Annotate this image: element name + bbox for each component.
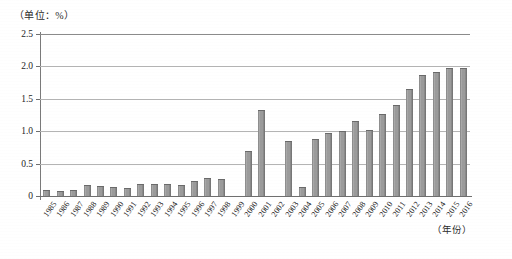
x-tick-label: 1995 (176, 200, 193, 219)
bar (191, 181, 198, 196)
x-tick-label: 1986 (55, 200, 72, 219)
x-tick-label: 2006 (324, 200, 341, 219)
x-tick-label: 1990 (109, 200, 126, 219)
y-tick-mark (36, 196, 40, 197)
x-tick-label: 1987 (68, 200, 85, 219)
x-tick-label: 1989 (95, 200, 112, 219)
x-tick-label: 1999 (229, 200, 246, 219)
bar (57, 191, 64, 196)
x-tick-label: 1996 (189, 200, 206, 219)
y-tick-label: 2.0 (21, 61, 33, 71)
y-tick-label: 0.5 (21, 159, 33, 169)
x-tick-label: 2016 (458, 200, 475, 219)
bar (419, 75, 426, 196)
bar (151, 184, 158, 196)
bar-series (40, 34, 470, 196)
x-axis-title: （年份） (432, 222, 472, 236)
x-tick-label: 1994 (162, 200, 179, 219)
x-axis-line (40, 196, 472, 197)
bar (258, 110, 265, 196)
bar (164, 184, 171, 196)
bar (137, 184, 144, 196)
bar (393, 105, 400, 196)
x-tick-label: 1998 (216, 200, 233, 219)
plot-area: 00.51.01.52.02.5 (40, 34, 470, 196)
bar (312, 139, 319, 196)
x-tick-label: 2003 (283, 200, 300, 219)
x-tick-label: 1985 (41, 200, 58, 219)
bar-chart-figure: （单位：%） 00.51.01.52.02.5 1985198619871988… (0, 0, 512, 259)
bar (245, 151, 252, 196)
x-tick-label: 2009 (364, 200, 381, 219)
x-tick-label: 1992 (135, 200, 152, 219)
bar (433, 72, 440, 196)
x-tick-label: 2011 (391, 200, 408, 218)
bar (366, 130, 373, 196)
x-tick-label: 2001 (256, 200, 273, 219)
bar (124, 188, 131, 196)
y-tick-label: 2.5 (21, 29, 33, 39)
bar (43, 190, 50, 196)
bar (460, 68, 467, 196)
bar (204, 178, 211, 196)
x-tick-label: 2007 (337, 200, 354, 219)
x-tick-label: 1991 (122, 200, 139, 219)
x-tick-label: 2008 (350, 200, 367, 219)
bar (178, 185, 185, 196)
y-tick-label: 0 (28, 191, 33, 201)
x-tick-label: 2012 (404, 200, 421, 219)
bar (352, 121, 359, 196)
bar (339, 131, 346, 196)
x-tick-label: 1993 (149, 200, 166, 219)
y-tick-label: 1.0 (21, 126, 33, 136)
bar (406, 89, 413, 196)
x-tick-label: 2015 (444, 200, 461, 219)
y-tick-label: 1.5 (21, 94, 33, 104)
bar (285, 141, 292, 196)
x-tick-label: 2002 (270, 200, 287, 219)
x-tick-label: 2014 (431, 200, 448, 219)
x-tick-label: 2000 (243, 200, 260, 219)
bar (446, 68, 453, 196)
bar (325, 133, 332, 197)
bar (110, 187, 117, 196)
bar (84, 185, 91, 196)
bar (97, 186, 104, 196)
x-tick-label: 2005 (310, 200, 327, 219)
bar (70, 190, 77, 196)
x-tick-label: 2010 (377, 200, 394, 219)
bar (218, 179, 225, 196)
bar (299, 187, 306, 196)
unit-caption: （单位：%） (14, 7, 74, 22)
bar (379, 114, 386, 196)
